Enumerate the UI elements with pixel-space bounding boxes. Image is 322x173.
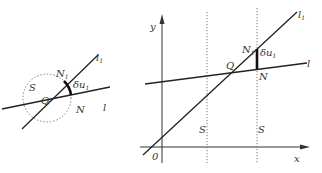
- y-axis-arrow-icon: [160, 14, 165, 24]
- line-l: [2, 87, 110, 109]
- label-S-right: S: [258, 124, 265, 135]
- left-figure: S N1 l1 Q N l δu1: [2, 52, 110, 129]
- diagram-canvas: S N1 l1 Q N l δu1 y x 0 l1 l N1 Q N δu1 …: [0, 0, 322, 173]
- label-Q: Q: [41, 95, 49, 106]
- label-N: N: [258, 71, 269, 82]
- label-S: S: [29, 82, 36, 93]
- x-axis-arrow-icon: [300, 145, 310, 150]
- label-delta-u1: δu1: [260, 47, 276, 59]
- label-y: y: [149, 21, 156, 32]
- right-figure: y x 0 l1 l N1 Q N δu1 S S: [140, 8, 310, 164]
- label-origin: 0: [152, 151, 159, 162]
- label-l1: l1: [298, 9, 305, 21]
- label-l1: l1: [96, 52, 103, 64]
- label-N1: N1: [55, 68, 69, 80]
- label-x: x: [294, 153, 300, 164]
- label-S-left: S: [199, 124, 206, 135]
- label-l: l: [103, 102, 106, 113]
- line-l1: [143, 12, 297, 155]
- label-delta-u1: δu1: [73, 79, 89, 91]
- label-Q: Q: [226, 60, 234, 71]
- label-N1: N1: [241, 44, 255, 56]
- label-N: N: [75, 104, 86, 115]
- label-l: l: [307, 58, 310, 69]
